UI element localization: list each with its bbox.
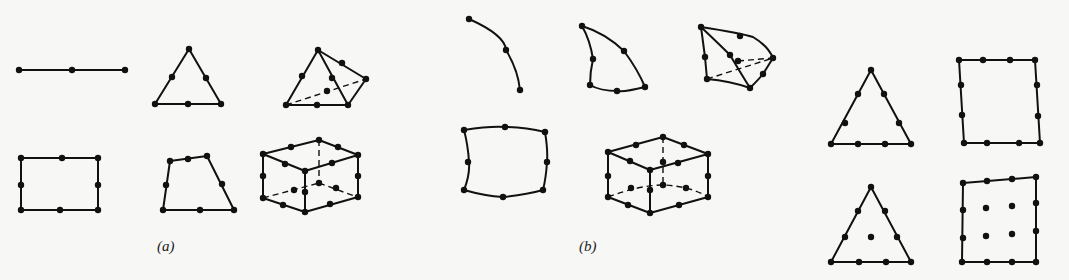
- cubic-triangle-element-10-node: [828, 184, 914, 265]
- curved-tetrahedron-element-10-node: [698, 24, 776, 91]
- line-element-3-node: [16, 67, 128, 73]
- curved-line-element-3-node: [466, 16, 523, 93]
- cubic-triangle-element-9-node: [828, 67, 914, 147]
- curved-triangle-element-6-node: [579, 23, 648, 94]
- curved-hexahedron-element-20-node: [605, 134, 711, 216]
- serendipity-quadrilateral-element-12-node: [956, 57, 1043, 146]
- panel-a: [16, 46, 369, 215]
- panel-c: [828, 57, 1043, 265]
- lagrange-quadrilateral-element-16-node: [959, 174, 1039, 265]
- tetrahedron-element-10-node: [283, 47, 369, 108]
- triangle-element-6-node: [152, 46, 224, 107]
- rectangle-element-8-node: [18, 155, 101, 213]
- quadrilateral-element-8-node: [160, 153, 237, 213]
- panel-a-caption: (a): [157, 238, 175, 255]
- panel-b-caption: (b): [579, 238, 597, 255]
- curved-quadrilateral-element-8-node: [461, 124, 550, 200]
- hexahedron-element-20-node: [260, 137, 361, 215]
- panel-b: [461, 16, 776, 216]
